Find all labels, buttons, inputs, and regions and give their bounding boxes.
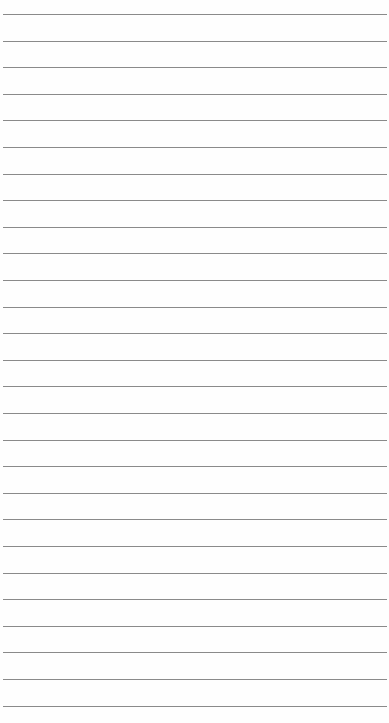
ruled-line [3,280,387,281]
ruled-line [3,227,387,228]
ruled-line [3,466,387,467]
ruled-line [3,440,387,441]
ruled-line [3,333,387,334]
ruled-line [3,67,387,68]
ruled-line [3,14,387,15]
ruled-line [3,599,387,600]
ruled-line [3,493,387,494]
ruled-line [3,626,387,627]
ruled-line [3,94,387,95]
ruled-line [3,546,387,547]
ruled-line [3,519,387,520]
ruled-line [3,573,387,574]
ruled-line [3,360,387,361]
ruled-line [3,413,387,414]
ruled-line [3,706,387,707]
ruled-line [3,253,387,254]
ruled-line [3,652,387,653]
lined-paper-sheet [0,0,389,723]
ruled-line [3,147,387,148]
ruled-line [3,120,387,121]
ruled-line [3,386,387,387]
ruled-line [3,41,387,42]
ruled-line [3,307,387,308]
ruled-line [3,679,387,680]
ruled-line [3,200,387,201]
ruled-line [3,174,387,175]
